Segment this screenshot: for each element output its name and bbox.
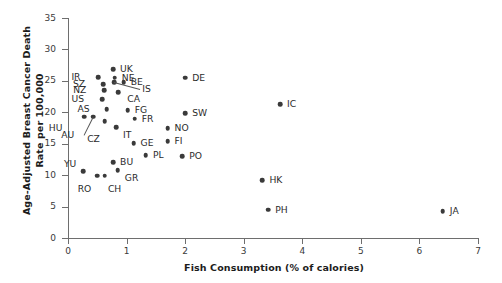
data-point-label: CZ: [87, 134, 100, 143]
data-point-label: GE: [141, 138, 154, 147]
data-point: [131, 141, 136, 146]
data-point: [103, 119, 108, 124]
data-point-label: US: [71, 94, 84, 103]
data-point-label: HK: [269, 175, 282, 184]
data-point-label: GR: [125, 173, 139, 182]
data-point-label: IC: [287, 99, 296, 108]
data-point-label: AU: [61, 130, 74, 139]
data-point-label: PL: [153, 150, 164, 159]
data-point: [111, 67, 116, 72]
data-point: [260, 178, 265, 183]
data-point-label: PO: [189, 151, 202, 160]
data-point-label: AS: [78, 104, 90, 113]
data-point: [165, 126, 170, 131]
data-point: [102, 88, 107, 93]
data-point: [183, 75, 188, 80]
data-point-label: IT: [123, 130, 131, 139]
data-point: [441, 209, 446, 214]
data-point: [96, 75, 101, 80]
plot-area: UKIRNEBESZISNZCAUSASFGFRHUAUCZITNOGEFIBU…: [0, 0, 502, 283]
data-point-label: IS: [142, 84, 151, 93]
data-point-label: BU: [120, 157, 133, 166]
data-point-label: CA: [127, 94, 140, 103]
data-point-label: PH: [275, 205, 287, 214]
data-point: [183, 111, 188, 116]
data-point: [115, 168, 120, 173]
data-point: [278, 102, 283, 107]
data-point-label: FI: [175, 136, 183, 145]
data-point: [104, 107, 109, 112]
data-point-label: SW: [192, 108, 207, 117]
data-point-label: RO: [78, 184, 92, 193]
data-point: [101, 82, 106, 87]
data-point: [165, 139, 170, 144]
data-point: [100, 97, 105, 102]
data-point: [114, 125, 119, 130]
data-point-label: YU: [64, 159, 76, 168]
data-point: [82, 114, 87, 119]
data-point: [266, 207, 271, 212]
data-point: [116, 90, 121, 95]
data-point-label: CH: [108, 184, 121, 193]
data-point: [180, 154, 185, 159]
data-point: [103, 173, 108, 178]
data-point-label: FR: [142, 114, 154, 123]
data-point: [81, 169, 86, 174]
data-point: [132, 116, 137, 121]
data-point-label: NO: [175, 123, 189, 132]
data-point: [144, 153, 149, 158]
data-point-label: JA: [450, 206, 459, 215]
data-point-label: DE: [192, 73, 205, 82]
scatter-plot-figure: Age-Adjusted Breast Cancer Death Rate pe…: [0, 0, 502, 283]
data-point-label: BE: [131, 77, 143, 86]
data-point: [111, 160, 116, 165]
data-point: [125, 108, 130, 113]
data-point: [95, 173, 100, 178]
